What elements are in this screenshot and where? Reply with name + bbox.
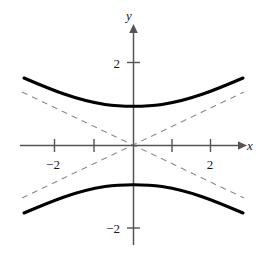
x-axis-label: x — [246, 138, 253, 153]
y-tick-label-2: 2 — [114, 56, 121, 71]
y-axis-arrow-icon — [129, 24, 138, 33]
y-tick-label--2: −2 — [106, 221, 120, 236]
hyperbola-figure: x y −2 2 2 −2 — [0, 0, 266, 254]
x-tick-label--2: −2 — [46, 157, 60, 172]
y-axis-label: y — [124, 8, 132, 23]
x-tick-label-2: 2 — [207, 157, 214, 172]
label-group: x y −2 2 2 −2 — [46, 8, 253, 236]
x-axis-arrow-icon — [238, 141, 247, 150]
graph-canvas: x y −2 2 2 −2 — [0, 0, 266, 254]
axis-group — [20, 24, 247, 245]
